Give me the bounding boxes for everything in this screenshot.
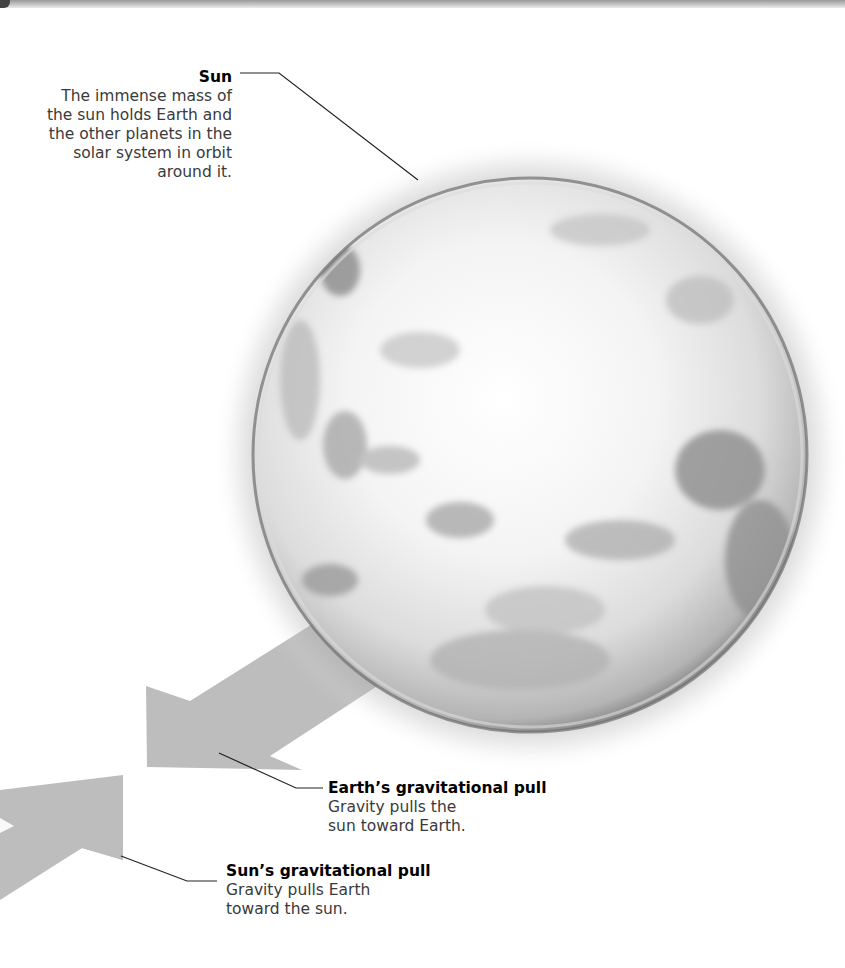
sun-pull-callout-text: Gravity pulls Earth toward the sun. <box>226 881 376 919</box>
sun-pull-leader-line <box>121 856 217 881</box>
sun-sphere <box>253 178 807 732</box>
sun-leader-line <box>240 73 418 180</box>
sun-callout-text: The immense mass of the sun holds Earth … <box>47 87 232 181</box>
earth-pull-callout-text: Gravity pulls the sun toward Earth. <box>328 798 488 836</box>
earth-pull-callout-title: Earth’s gravitational pull <box>328 779 568 798</box>
earth-pull-callout: Earth’s gravitational pull Gravity pulls… <box>328 779 568 836</box>
sun-callout: Sun The immense mass of the sun holds Ea… <box>40 68 232 182</box>
sun-pull-callout: Sun’s gravitational pull Gravity pulls E… <box>226 862 466 919</box>
sun-callout-title: Sun <box>40 68 232 87</box>
sun-gravity-arrow <box>0 775 123 900</box>
sun-pull-callout-title: Sun’s gravitational pull <box>226 862 466 881</box>
